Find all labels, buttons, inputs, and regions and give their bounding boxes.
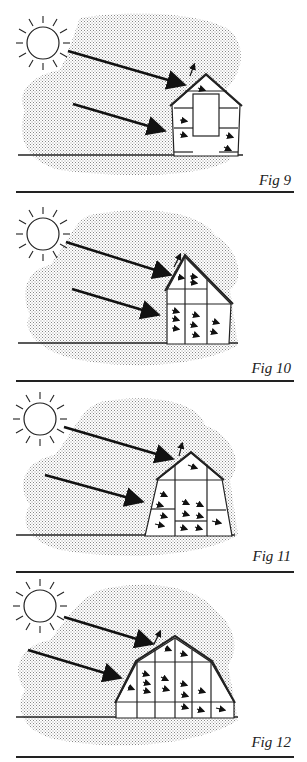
greenhouse-diagram-fig10	[0, 190, 307, 385]
divider	[16, 756, 294, 758]
greenhouse-diagram-fig9	[0, 0, 307, 195]
figure-9: Fig 9	[0, 0, 307, 195]
figure-caption: Fig 9	[259, 172, 291, 189]
figure-caption: Fig 12	[251, 734, 291, 751]
figure-caption: Fig 10	[251, 360, 291, 377]
figure-10: Fig 10	[0, 190, 307, 385]
sun-icon	[13, 392, 67, 446]
greenhouse-diagram-fig11	[0, 380, 307, 575]
figure-11: Fig 11	[0, 380, 307, 575]
sun-icon	[13, 579, 67, 633]
sun-icon	[16, 16, 70, 70]
figure-12: Fig 12	[0, 570, 307, 762]
figure-caption: Fig 11	[253, 548, 291, 565]
